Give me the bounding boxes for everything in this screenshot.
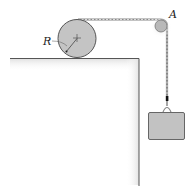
pulley-wheel-diagram: A R: [0, 0, 196, 194]
ground-edge: [10, 59, 139, 187]
ground-shade-horizontal: [10, 59, 139, 71]
pulley-label: A: [168, 8, 177, 21]
ground-shade-vertical: [126, 59, 139, 185]
radius-label: R: [42, 35, 51, 48]
radius-arrowhead: [66, 51, 68, 53]
hook: [163, 108, 171, 113]
pulley-a: [155, 20, 167, 32]
rope-clamp: [166, 96, 169, 101]
hanging-block: [149, 113, 185, 140]
